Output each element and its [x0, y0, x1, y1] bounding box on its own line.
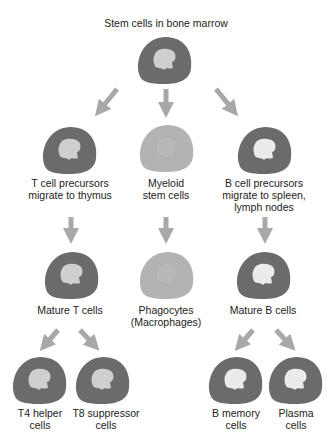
- arrow-mature-b-to-memory: [240, 330, 253, 345]
- label-mature-b: Mature B cells: [230, 304, 297, 316]
- stem-cell-icon: [138, 37, 191, 84]
- label-line: cells: [212, 419, 260, 431]
- label-line: stem cells: [143, 189, 190, 201]
- label-t8-suppressor: T8 suppressor cells: [72, 407, 139, 431]
- label-t-precursor: T cell precursors migrate to thymus: [28, 177, 111, 201]
- label-line: cells: [18, 419, 62, 431]
- label-line: Myeloid: [143, 177, 190, 189]
- label-line: B cell precursors: [222, 177, 305, 189]
- label-mature-t: Mature T cells: [37, 304, 103, 316]
- arrow-stem-to-t: [100, 89, 117, 110]
- t-precursor-cell-icon: [43, 127, 96, 174]
- label-line: Phagocytes: [131, 304, 202, 316]
- label-line: (Macrophages): [131, 316, 202, 328]
- label-line: T4 helper: [18, 407, 62, 419]
- label-line: migrate to thymus: [28, 189, 111, 201]
- t4-helper-cell-icon: [13, 357, 66, 404]
- label-line: Mature T cells: [37, 304, 103, 316]
- label-line: Plasma: [278, 407, 313, 419]
- label-myeloid: Myeloid stem cells: [143, 177, 190, 201]
- label-b-memory: B memory cells: [212, 407, 260, 431]
- label-line: lymph nodes: [222, 201, 305, 213]
- arrow-mature-t-to-t8: [80, 330, 94, 345]
- label-line: Mature B cells: [230, 304, 297, 316]
- label-line: migrate to spleen,: [222, 189, 305, 201]
- title-stem-cells: Stem cells in bone marrow: [104, 17, 228, 29]
- label-line: cells: [278, 419, 313, 431]
- arrow-mature-t-to-t4: [45, 330, 58, 345]
- label-b-precursor: B cell precursors migrate to spleen, lym…: [222, 177, 305, 213]
- mature-b-cell-icon: [237, 252, 290, 299]
- arrow-mature-b-to-plasma: [276, 330, 290, 345]
- b-precursor-cell-icon: [238, 127, 291, 174]
- myeloid-cell-icon: [140, 125, 193, 172]
- arrow-stem-to-b: [216, 89, 233, 110]
- b-memory-cell-icon: [209, 357, 262, 404]
- t8-suppressor-cell-icon: [76, 357, 129, 404]
- label-line: T8 suppressor: [72, 407, 139, 419]
- label-t4-helper: T4 helper cells: [18, 407, 62, 431]
- cell-lineage-diagram: [0, 0, 333, 443]
- label-line: T cell precursors: [28, 177, 111, 189]
- label-phagocytes: Phagocytes (Macrophages): [131, 304, 202, 328]
- label-plasma: Plasma cells: [278, 407, 313, 431]
- phagocyte-cell-icon: [140, 252, 193, 299]
- plasma-cell-icon: [269, 357, 322, 404]
- label-line: B memory: [212, 407, 260, 419]
- mature-t-cell-icon: [45, 252, 98, 299]
- label-line: cells: [72, 419, 139, 431]
